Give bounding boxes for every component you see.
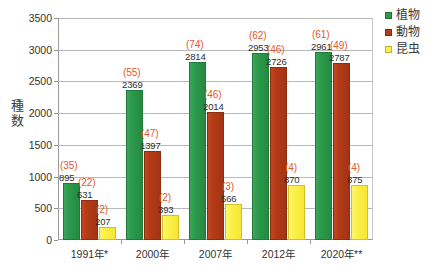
legend-swatch-insects <box>385 46 392 53</box>
bar-plants-3 <box>252 53 269 240</box>
bar-insects-2 <box>225 204 242 240</box>
bar-plants-4 <box>315 52 332 240</box>
bar-value-label-plants-2: 2814 <box>185 51 206 62</box>
legend-swatch-plants <box>385 12 392 19</box>
bar-annotation-plants-1: (55) <box>123 67 140 78</box>
bar-animals-2 <box>207 112 224 240</box>
y-tick-label: 0 <box>8 234 52 246</box>
y-tick-mark <box>54 81 58 82</box>
y-tick-mark <box>54 177 58 178</box>
bar-value-label-animals-4: 2787 <box>329 52 350 63</box>
bar-annotation-plants-0: (35) <box>60 160 77 171</box>
bar-value-label-insects-1: 393 <box>158 204 174 215</box>
y-tick-label: 500 <box>8 202 52 214</box>
bar-annotation-plants-3: (62) <box>249 30 266 41</box>
bar-insects-0 <box>99 227 116 240</box>
bar-value-label-plants-3: 2953 <box>248 42 269 53</box>
bar-value-label-animals-2: 2014 <box>203 101 224 112</box>
bar-animals-3 <box>270 67 287 240</box>
bar-animals-4 <box>333 63 350 240</box>
bar-insects-4 <box>351 185 368 241</box>
y-tick-label: 1000 <box>8 171 52 183</box>
bar-value-label-plants-1: 2369 <box>122 79 143 90</box>
y-tick-mark <box>54 208 58 209</box>
bar-value-label-animals-3: 2726 <box>266 56 287 67</box>
bar-annotation-animals-1: (47) <box>141 128 158 139</box>
bar-chart: 種 数 3500300025002000150010005000 895(35)… <box>0 0 439 267</box>
y-tick-mark <box>54 145 58 146</box>
legend-item-insects: 昆虫 <box>385 42 439 57</box>
y-tick-label: 3000 <box>8 44 52 56</box>
bar-annotation-plants-2: (74) <box>186 39 203 50</box>
y-tick-label: 1500 <box>8 139 52 151</box>
bar-plants-1 <box>126 90 143 240</box>
bar-annotation-insects-4: (4) <box>348 162 360 173</box>
bar-annotation-insects-0: (2) <box>96 204 108 215</box>
legend-swatch-animals <box>385 29 392 36</box>
y-tick-mark <box>54 50 58 51</box>
y-tick-mark <box>54 240 58 241</box>
bar-insects-3 <box>288 185 305 240</box>
bar-annotation-animals-2: (46) <box>204 89 221 100</box>
bar-annotation-animals-3: (46) <box>267 44 284 55</box>
bar-value-label-plants-4: 2961 <box>311 41 332 52</box>
legend-label-insects: 昆虫 <box>396 43 420 56</box>
bar-annotation-insects-2: (3) <box>222 181 234 192</box>
bar-annotation-insects-3: (4) <box>285 162 297 173</box>
x-tick-mark <box>184 240 185 244</box>
bar-annotation-animals-4: (49) <box>330 40 347 51</box>
gridline <box>58 18 373 19</box>
legend-item-plants: 植物 <box>385 8 439 23</box>
chart-legend: 植物 動物 昆虫 <box>385 8 439 59</box>
y-tick-label: 3500 <box>8 12 52 24</box>
y-tick-mark <box>54 18 58 19</box>
x-tick-label-4: 2020年** <box>302 246 382 261</box>
bar-value-label-animals-0: 631 <box>77 189 93 200</box>
bar-annotation-animals-0: (22) <box>78 177 95 188</box>
bar-value-label-plants-0: 895 <box>59 172 75 183</box>
bar-insects-1 <box>162 215 179 240</box>
y-tick-label: 2000 <box>8 107 52 119</box>
x-tick-mark <box>247 240 248 244</box>
bar-value-label-animals-1: 1397 <box>140 140 161 151</box>
legend-item-animals: 動物 <box>385 25 439 40</box>
legend-label-plants: 植物 <box>396 9 420 22</box>
x-tick-mark <box>121 240 122 244</box>
y-tick-label: 2500 <box>8 75 52 87</box>
bar-value-label-insects-4: 875 <box>347 174 363 185</box>
bar-value-label-insects-0: 207 <box>95 216 111 227</box>
legend-label-animals: 動物 <box>396 26 420 39</box>
bar-annotation-insects-1: (2) <box>159 192 171 203</box>
bar-value-label-insects-3: 870 <box>284 174 300 185</box>
x-tick-mark <box>310 240 311 244</box>
bar-value-label-insects-2: 566 <box>221 193 237 204</box>
bar-annotation-plants-4: (61) <box>312 29 329 40</box>
y-tick-mark <box>54 113 58 114</box>
